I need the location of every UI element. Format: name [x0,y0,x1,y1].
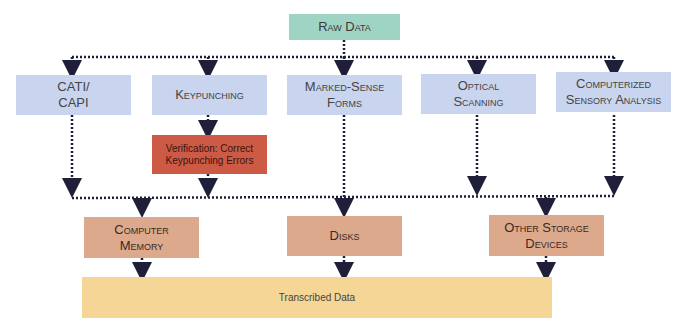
transcribed-data-box: Transcribed Data [82,277,552,318]
method-keypunching-box: Keypunching [152,75,267,115]
verification-label: Verification: Correct Keypunching Errors [166,143,254,167]
method-label: Keypunching [175,87,244,103]
method-computerized-sensory-analysis-box: Computerized Sensory Analysis [556,72,671,112]
method-optical-scanning-box: Optical Scanning [421,74,536,114]
verification-box: Verification: Correct Keypunching Errors [152,135,267,174]
method-label: Marked-Sense Forms [305,79,384,110]
method-cati-capi-box: CATI/ CAPI [16,75,131,115]
raw-data-box: Raw Data [289,14,400,40]
method-marked-sense-forms-box: Marked-Sense Forms [287,75,402,115]
storage-computer-memory-box: Computer Memory [84,217,199,258]
storage-disks-box: Disks [287,216,402,256]
raw-data-label: Raw Data [318,19,371,35]
method-label: CATI/ CAPI [57,79,89,110]
method-label: Computerized Sensory Analysis [566,76,661,107]
storage-label: Disks [330,228,360,244]
transcribed-data-label: Transcribed Data [279,292,355,304]
method-label: Optical Scanning [453,78,503,109]
storage-other-devices-box: Other Storage Devices [489,215,604,256]
storage-label: Computer Memory [114,222,168,253]
storage-label: Other Storage Devices [504,220,589,251]
